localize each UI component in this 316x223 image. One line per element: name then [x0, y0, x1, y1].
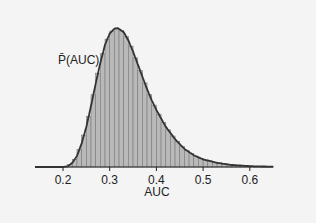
histogram-bar [156, 114, 161, 167]
histogram-bar [96, 73, 101, 167]
histogram-bars [63, 28, 273, 167]
histogram-bar [147, 95, 152, 167]
histogram-bar [119, 31, 124, 167]
histogram-bar [152, 105, 157, 167]
histogram-bar [170, 136, 175, 167]
x-tick-label: 0.6 [241, 173, 258, 187]
histogram-bar [124, 36, 129, 167]
curve-label: P̄(AUC) [58, 53, 99, 67]
histogram-bar [184, 150, 189, 167]
x-axis-ticks: 0.20.30.40.50.6 [55, 167, 259, 187]
chart-canvas: 0.20.30.40.50.6 P̄(AUC) AUC [0, 0, 316, 223]
histogram-bar [133, 58, 138, 167]
histogram-bar [138, 70, 143, 167]
x-tick-label: 0.2 [55, 173, 72, 187]
x-tick-label: 0.3 [101, 173, 118, 187]
histogram-bar [114, 28, 119, 167]
histogram-bar [110, 31, 115, 167]
histogram-bar [175, 142, 180, 167]
x-axis-title: AUC [144, 185, 170, 199]
histogram-bar [100, 54, 105, 167]
histogram-bar [128, 46, 133, 167]
density-chart: 0.20.30.40.50.6 P̄(AUC) AUC [0, 0, 316, 223]
histogram-bar [161, 123, 166, 167]
histogram-bar [166, 130, 171, 167]
x-tick-label: 0.5 [195, 173, 212, 187]
histogram-bar [180, 146, 185, 167]
histogram-bar [142, 83, 147, 167]
histogram-bar [105, 39, 110, 167]
